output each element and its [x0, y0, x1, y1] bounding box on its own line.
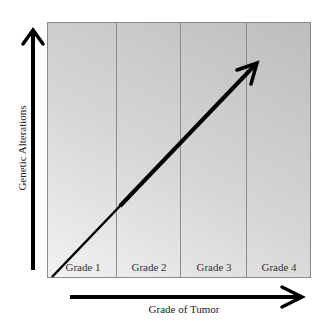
trend-arrow-icon — [52, 63, 257, 277]
y-axis-label: Genetic Alterations — [16, 105, 28, 190]
x-axis-label: Grade of Tumor — [149, 303, 220, 315]
diagram: Grade 1 Grade 2 Grade 3 Grade 4 Genetic … — [0, 0, 328, 327]
arrows-layer — [0, 0, 328, 327]
